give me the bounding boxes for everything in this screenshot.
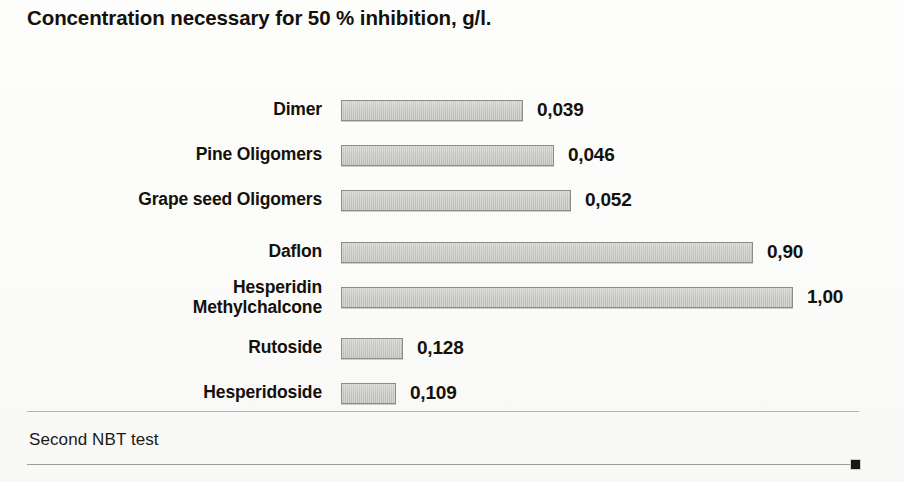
bar-row: Grape seed Oligomers0,052 — [0, 189, 904, 215]
bar-category-label: Daflon — [12, 242, 322, 261]
bar — [341, 383, 396, 404]
bar — [341, 100, 523, 121]
bar-row: Pine Oligomers0,046 — [0, 144, 904, 170]
bar-category-label: Rutoside — [12, 338, 322, 357]
bar-value-label: 1,00 — [807, 286, 843, 308]
footer-note: Second NBT test — [29, 430, 159, 450]
bar — [341, 145, 554, 166]
chart-page: Concentration necessary for 50 % inhibit… — [0, 0, 904, 482]
footer-divider-bottom — [27, 464, 853, 465]
bar-category-label: Hesperidoside — [12, 383, 322, 402]
bar — [341, 242, 753, 263]
end-marker-square — [850, 459, 861, 470]
bar-value-label: 0,109 — [410, 382, 457, 404]
bar — [341, 287, 793, 308]
bar-row: Daflon0,90 — [0, 241, 904, 267]
bar-value-label: 0,90 — [767, 241, 803, 263]
page-title: Concentration necessary for 50 % inhibit… — [27, 6, 491, 30]
bar-value-label: 0,128 — [417, 337, 464, 359]
bar — [341, 338, 403, 359]
bar-value-label: 0,039 — [537, 99, 584, 121]
bar — [341, 190, 571, 211]
bar-value-label: 0,046 — [568, 144, 615, 166]
bar-row: Hesperidin Methylchalcone1,00 — [0, 286, 904, 312]
bar-row: Dimer0,039 — [0, 99, 904, 125]
bar-row: Rutoside0,128 — [0, 337, 904, 363]
bar-category-label: Grape seed Oligomers — [12, 190, 322, 209]
bar-value-label: 0,052 — [585, 189, 632, 211]
footer-divider-top — [27, 411, 859, 412]
bar-category-label: Dimer — [12, 100, 322, 119]
bar-category-label: Pine Oligomers — [12, 145, 322, 164]
bar-category-label: Hesperidin Methylchalcone — [12, 278, 322, 317]
bar-row: Hesperidoside0,109 — [0, 382, 904, 408]
